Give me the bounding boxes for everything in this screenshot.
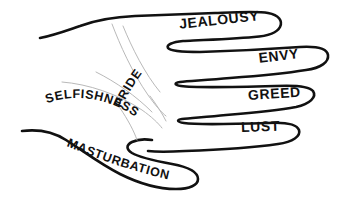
label-lust-text: LUST	[241, 118, 281, 135]
label-greed: GREED	[248, 84, 302, 103]
label-lust: LUST	[241, 118, 281, 135]
palm-creases-group	[62, 24, 166, 140]
label-masturbation-text: MASTURBATION	[65, 136, 171, 183]
hand-diagram-canvas: JEALOUSY ENVY GREED LUST PRIDE SELFISHNE…	[0, 0, 343, 197]
hand-drawing: JEALOUSY ENVY GREED LUST PRIDE SELFISHNE…	[0, 0, 343, 197]
labels-group: JEALOUSY ENVY GREED LUST PRIDE SELFISHNE…	[44, 7, 302, 182]
label-greed-text: GREED	[248, 84, 302, 103]
label-jealousy-text: JEALOUSY	[178, 7, 260, 31]
fingers-outline	[40, 12, 328, 152]
label-masturbation: MASTURBATION	[65, 136, 171, 183]
label-jealousy: JEALOUSY	[178, 7, 260, 31]
